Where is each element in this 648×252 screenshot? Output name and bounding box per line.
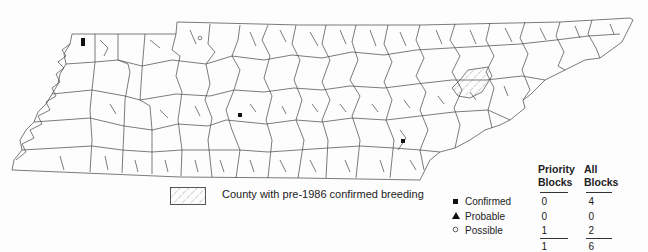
row-label-probable: Probable [465, 211, 505, 222]
confirmed-priority-count: 0 [527, 196, 547, 207]
hatch-legend-swatch [170, 187, 206, 205]
possible-marker [198, 36, 202, 40]
confirmed-square-icon [453, 199, 458, 204]
total-priority-count: 1 [527, 241, 547, 252]
priority-header-line1: Priority [538, 163, 575, 176]
priority-header-line2: Blocks [538, 176, 575, 189]
probable-priority-count: 0 [527, 211, 547, 222]
total-rule-all [586, 238, 612, 239]
row-label-confirmed: Confirmed [465, 196, 511, 207]
confirmed-marker [81, 38, 85, 46]
county-boundaries [12, 18, 633, 180]
possible-all-count: 2 [574, 225, 594, 236]
priority-blocks-header: Priority Blocks [538, 163, 575, 189]
probable-triangle-icon [452, 212, 460, 219]
all-header-line2: Blocks [584, 176, 618, 189]
possible-circle-icon [452, 226, 459, 233]
confirmed-marker [238, 113, 242, 117]
hatched-county [452, 67, 492, 98]
all-blocks-header: All Blocks [584, 163, 618, 189]
total-rule-priority [540, 238, 568, 239]
hatch-legend-label: County with pre-1986 confirmed breeding [222, 188, 424, 200]
confirmed-marker [401, 139, 405, 143]
confirmed-all-count: 4 [574, 196, 594, 207]
probable-all-count: 0 [574, 211, 594, 222]
all-header-line1: All [584, 163, 618, 176]
row-label-possible: Possible [465, 225, 503, 236]
header-rule-all [586, 192, 612, 193]
total-all-count: 6 [574, 241, 594, 252]
header-rule-priority [540, 192, 568, 193]
possible-priority-count: 1 [527, 225, 547, 236]
